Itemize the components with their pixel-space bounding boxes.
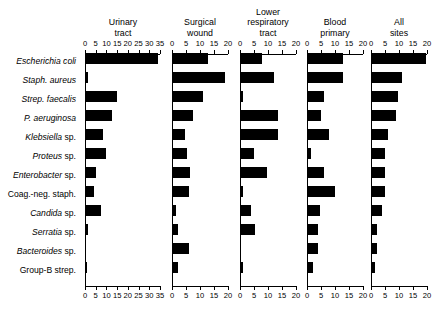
panel-blood-primary: Bloodprimary0055101015152020	[301, 0, 369, 331]
bar	[371, 148, 385, 159]
axis-tick-label: 10	[196, 40, 204, 48]
axis-tick	[96, 286, 97, 290]
bar	[85, 148, 106, 159]
axis-tick-label: 5	[184, 292, 188, 300]
bar	[371, 186, 385, 197]
axis-tick	[427, 286, 428, 290]
axis-tick-label: 10	[395, 40, 403, 48]
bar	[172, 53, 208, 64]
bar	[85, 224, 88, 235]
axis-tick	[117, 286, 118, 290]
axis-tick-label: 20	[423, 40, 431, 48]
axis-tick-label: 30	[145, 40, 153, 48]
bar	[172, 186, 189, 197]
chart-figure: Escherichia coliStaph. aureusStrep. faec…	[0, 0, 433, 331]
axis-tick	[139, 286, 140, 290]
bar	[371, 91, 398, 102]
bar	[172, 91, 203, 102]
axis-tick	[296, 286, 297, 290]
axis-tick-label: 5	[383, 40, 387, 48]
axis-tick-label: 5	[252, 40, 256, 48]
panel-urinary-tract: Urinarytract0055101015152020252530303535	[80, 0, 166, 331]
bar	[371, 129, 388, 140]
axis-tick-label: 10	[264, 40, 272, 48]
axis-tick-label: 35	[156, 40, 164, 48]
bar	[85, 129, 103, 140]
axis-tick-label: 20	[224, 40, 232, 48]
axis-tick	[413, 286, 414, 290]
axis-tick-label: 5	[252, 292, 256, 300]
axis-tick	[214, 50, 215, 54]
axis-tick-label: 20	[224, 292, 232, 300]
axis-tick	[307, 286, 308, 290]
axis-tick	[282, 50, 283, 54]
category-label: Proteus sp.	[33, 151, 76, 161]
bar	[172, 262, 178, 273]
axis-tick-label: 0	[369, 40, 373, 48]
bar	[307, 53, 343, 64]
axis-tick	[385, 286, 386, 290]
bar	[85, 72, 88, 83]
bar	[307, 224, 318, 235]
axis-tick	[268, 50, 269, 54]
category-label: Strep. faecalis	[22, 94, 76, 104]
axis-tick-label: 5	[383, 292, 387, 300]
bar	[307, 129, 329, 140]
axis-tick-label: 5	[319, 292, 323, 300]
bar	[240, 129, 278, 140]
bar	[371, 167, 385, 178]
axis-tick-label: 5	[94, 292, 98, 300]
bar	[85, 110, 112, 121]
bar	[240, 91, 243, 102]
bar	[307, 186, 335, 197]
axis-tick-label: 0	[170, 292, 174, 300]
axis-tick-label: 15	[113, 40, 121, 48]
axis-tick-label: 15	[278, 292, 286, 300]
axis-tick	[335, 286, 336, 290]
bar	[172, 243, 189, 254]
axis-tick-label: 0	[238, 292, 242, 300]
axis-tick	[282, 286, 283, 290]
bar	[240, 167, 267, 178]
bar	[240, 186, 243, 197]
bar	[240, 72, 274, 83]
axis-tick-label: 0	[170, 40, 174, 48]
bar	[371, 53, 426, 64]
axis-tick-label: 0	[83, 292, 87, 300]
bar	[172, 129, 185, 140]
axis-tick-label: 15	[409, 40, 417, 48]
bar	[307, 72, 343, 83]
axis-tick	[228, 50, 229, 54]
axis-tick-label: 5	[94, 40, 98, 48]
axis-tick	[254, 286, 255, 290]
bar	[85, 91, 117, 102]
axis-tick-label: 15	[210, 40, 218, 48]
category-label: Coag.-neg. staph.	[8, 189, 76, 199]
bar	[172, 167, 190, 178]
category-label: Serratia sp.	[32, 227, 76, 237]
axis-tick	[172, 286, 173, 290]
bar	[307, 262, 313, 273]
axis-tick	[399, 286, 400, 290]
axis-tick-label: 20	[292, 40, 300, 48]
axis-tick-label: 0	[83, 40, 87, 48]
plot-area: 0055101015152020	[166, 0, 234, 331]
axis-tick-label: 15	[345, 292, 353, 300]
axis-tick-label: 10	[102, 292, 110, 300]
axis-tick-label: 0	[305, 292, 309, 300]
axis-tick	[349, 50, 350, 54]
axis-tick-label: 20	[423, 292, 431, 300]
axis-tick-label: 15	[345, 40, 353, 48]
axis-tick-label: 15	[278, 40, 286, 48]
plot-area: 0055101015152020	[301, 0, 369, 331]
axis-tick	[296, 50, 297, 54]
axis-tick-label: 15	[409, 292, 417, 300]
plot-area: 0055101015152020	[365, 0, 433, 331]
bar	[240, 205, 251, 216]
bar	[85, 262, 87, 273]
axis-tick-label: 20	[292, 292, 300, 300]
axis-tick-label: 35	[156, 292, 164, 300]
plot-area: 0055101015152020	[234, 0, 302, 331]
axis-tick-label: 0	[305, 40, 309, 48]
plot-area: 0055101015152020252530303535	[80, 0, 166, 331]
